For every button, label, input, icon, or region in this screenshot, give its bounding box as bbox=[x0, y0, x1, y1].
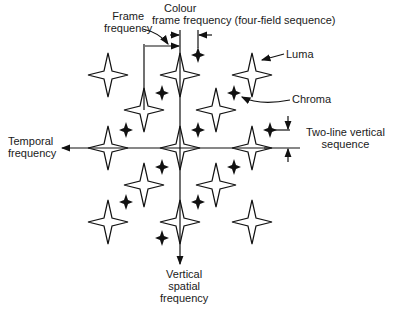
luma-star-icon bbox=[88, 200, 128, 244]
luma-star-icon bbox=[196, 163, 236, 207]
chroma-star-icon bbox=[191, 194, 205, 210]
chroma-label: Chroma bbox=[292, 93, 331, 105]
luma-star-icon bbox=[196, 88, 236, 132]
chroma-star-icon bbox=[119, 194, 133, 210]
luma-star-icon bbox=[232, 200, 272, 244]
vertical-spatial-frequency-label: Verticalspatialfrequency bbox=[160, 268, 208, 304]
spectrum-diagram bbox=[0, 0, 396, 312]
frame-frequency-label: Framefrequency bbox=[104, 10, 152, 34]
colour-frame-frequency-label: Colourframe frequency (four-field sequen… bbox=[152, 2, 335, 26]
chroma-star-icon bbox=[155, 230, 169, 246]
chroma-star-icon bbox=[227, 159, 241, 175]
two-line-vertical-label: Two-line verticalsequence bbox=[306, 126, 385, 150]
luma-star-icon bbox=[124, 163, 164, 207]
temporal-frequency-label: Temporalfrequency bbox=[8, 135, 56, 159]
chroma-star-icon bbox=[155, 85, 169, 101]
chroma-star-icon bbox=[155, 159, 169, 175]
chroma-star-icon bbox=[191, 47, 205, 63]
chroma-star-icon bbox=[119, 122, 133, 138]
chroma-star-icon bbox=[191, 122, 205, 138]
luma-label: Luma bbox=[286, 48, 314, 60]
luma-star-icon bbox=[232, 53, 272, 97]
luma-star-icon bbox=[88, 53, 128, 97]
chroma-star-icon bbox=[227, 85, 241, 101]
